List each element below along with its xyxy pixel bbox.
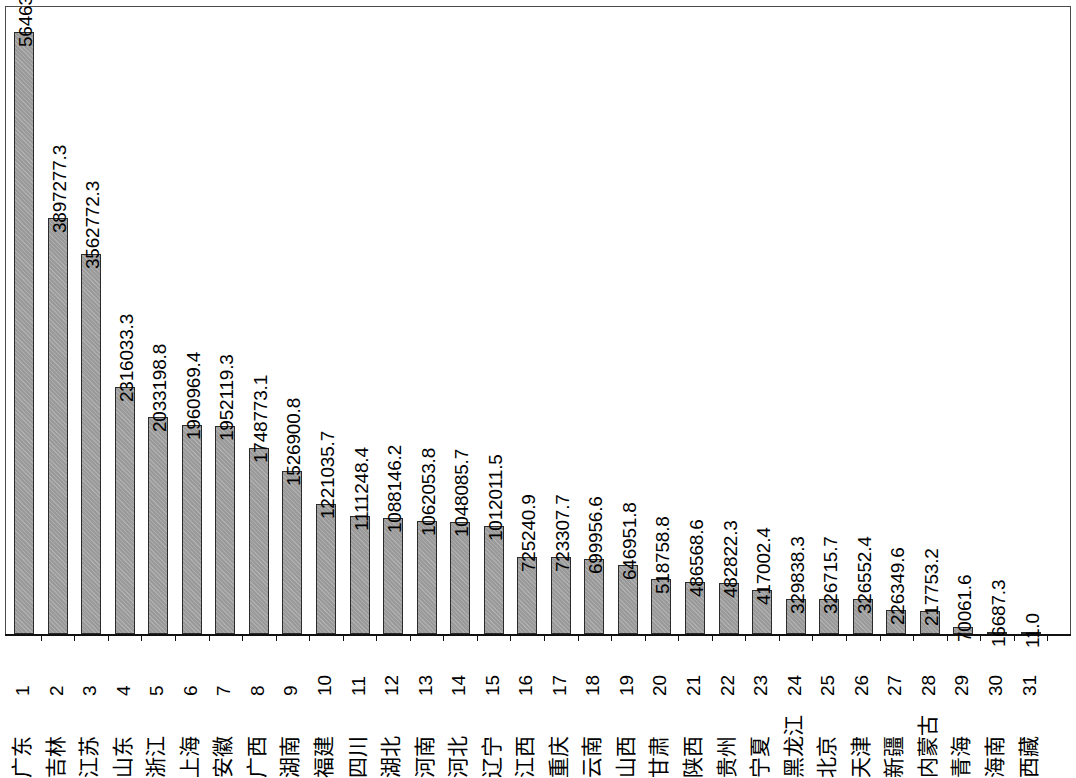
x-axis-tick: [443, 634, 444, 641]
x-axis-tick: [477, 634, 478, 641]
bar-value-label: 646951.8: [620, 502, 639, 580]
bar-value-label: 1952119.3: [217, 354, 236, 441]
x-axis-tick: [1047, 634, 1048, 641]
bar[interactable]: [249, 448, 269, 634]
bar-value-label: 486568.6: [687, 519, 706, 597]
bar-value-label: 1960969.4: [184, 352, 203, 440]
x-axis-category-label: 山西: [616, 736, 637, 778]
bar-value-label: 725240.9: [519, 494, 538, 572]
x-axis-category-label: 广西: [247, 736, 268, 778]
bar-value-label: 329838.3: [788, 536, 807, 614]
bar[interactable]: [417, 521, 437, 634]
x-axis-category-label: 北京: [817, 736, 838, 778]
x-axis-tick: [947, 634, 948, 641]
x-axis-tick: [41, 634, 42, 641]
bar-value-label: 723307.7: [553, 494, 572, 572]
x-axis-tick: [611, 634, 612, 641]
bar-value-label: 1748773.1: [251, 375, 270, 463]
x-axis-tick: [74, 634, 75, 641]
x-axis-category-label: 云南: [582, 736, 603, 778]
x-axis-tick: [175, 634, 176, 641]
bar-value-label: 1088146.2: [385, 445, 404, 533]
bar[interactable]: [148, 417, 168, 634]
bar-value-label: 1048085.7: [452, 449, 471, 537]
x-axis-category-label: 湖南: [280, 736, 301, 778]
bar-value-label: 326552.4: [855, 537, 874, 615]
x-axis-tick: [242, 634, 243, 641]
x-axis-tick: [343, 634, 344, 641]
x-axis-tick: [712, 634, 713, 641]
x-axis-tick: [209, 634, 210, 641]
bar[interactable]: [14, 32, 34, 634]
x-axis-tick: [678, 634, 679, 641]
x-axis-line: [5, 634, 1071, 636]
x-axis-category-label: 陕西: [683, 736, 704, 778]
x-axis-category-label: 甘肃: [649, 736, 670, 778]
bar-value-label: 482822.3: [721, 520, 740, 598]
bar[interactable]: [182, 425, 202, 634]
x-axis-category-label: 江西: [515, 736, 536, 778]
bar[interactable]: [316, 504, 336, 634]
x-axis-category-label: 内蒙古: [918, 715, 939, 778]
x-axis-tick: [510, 634, 511, 641]
bar-value-label: 1526900.8: [284, 398, 303, 486]
bar-value-label: 3562772.3: [83, 181, 102, 269]
bar[interactable]: [484, 526, 504, 634]
x-axis-tick: [544, 634, 545, 641]
x-axis-category-label: 河南: [415, 736, 436, 778]
x-axis-tick: [745, 634, 746, 641]
bar-value-label: 217753.2: [922, 548, 941, 626]
bar[interactable]: [282, 471, 302, 634]
bar-value-label: 699956.6: [586, 497, 605, 575]
bar-value-label: 70061.6: [955, 574, 974, 641]
x-axis-tick: [276, 634, 277, 641]
bar[interactable]: [450, 522, 470, 634]
bar-value-label: 3897277.3: [50, 145, 69, 233]
x-axis-tick: [645, 634, 646, 641]
x-axis-tick: [913, 634, 914, 641]
bar[interactable]: [115, 387, 135, 634]
bars-layer: 5646327.13897277.33562772.32316033.32033…: [0, 0, 1076, 634]
bar-value-label: 417002.4: [754, 527, 773, 605]
x-axis-tick: [846, 634, 847, 641]
bar-value-label: 326715.7: [821, 537, 840, 615]
x-axis-tick: [309, 634, 310, 641]
x-axis-tick: [578, 634, 579, 641]
bar-value-label: 226349.6: [888, 547, 907, 625]
bar-value-label: 5646327.1: [16, 0, 35, 47]
x-axis-category-label: 江苏: [79, 736, 100, 778]
bar-value-label: 1111248.4: [352, 447, 371, 531]
x-axis-category-label: 吉林: [46, 736, 67, 778]
x-axis-category-labels: 广东吉林江苏山东浙江上海安徽广西湖南福建四川湖北河南河北辽宁江西重庆云南山西甘肃…: [0, 683, 1076, 761]
x-axis-category-label: 湖北: [381, 736, 402, 778]
bar[interactable]: [350, 516, 370, 634]
x-axis-tick: [108, 634, 109, 641]
x-axis-category-label: 宁夏: [750, 736, 771, 778]
bar-value-label: 16687.3: [989, 580, 1008, 647]
x-axis-category-label: 辽宁: [482, 736, 503, 778]
x-axis-tick: [880, 634, 881, 641]
x-axis-category-label: 河北: [448, 736, 469, 778]
x-axis-tick: [980, 634, 981, 641]
x-axis-category-label: 海南: [985, 736, 1006, 778]
bar[interactable]: [81, 254, 101, 634]
x-axis-category-label: 新疆: [884, 736, 905, 778]
bar[interactable]: [215, 426, 235, 634]
bar-value-label: 1221035.7: [318, 431, 337, 519]
bar-value-label: 2033198.8: [150, 344, 169, 432]
x-axis-category-label: 安徽: [213, 736, 234, 778]
bar-value-label: 1062053.8: [419, 448, 438, 536]
x-axis-category-label: 重庆: [549, 736, 570, 778]
bar[interactable]: [383, 518, 403, 634]
x-axis-category-label: 黑龙江: [784, 715, 805, 778]
x-axis-category-label: 上海: [180, 736, 201, 778]
bar[interactable]: [48, 218, 68, 634]
x-axis-tick: [1014, 634, 1015, 641]
x-axis-tick: [779, 634, 780, 641]
bar-value-label: 518758.8: [653, 516, 672, 594]
bar-value-label: 2316033.3: [117, 314, 136, 402]
x-axis-tick: [410, 634, 411, 641]
x-axis-category-label: 西藏: [1019, 736, 1040, 778]
x-axis-tick: [141, 634, 142, 641]
